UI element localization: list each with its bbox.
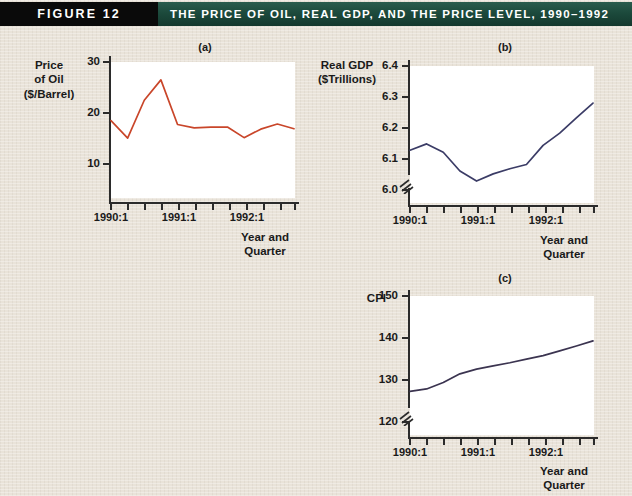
panel-c-series-line: [0, 0, 632, 496]
